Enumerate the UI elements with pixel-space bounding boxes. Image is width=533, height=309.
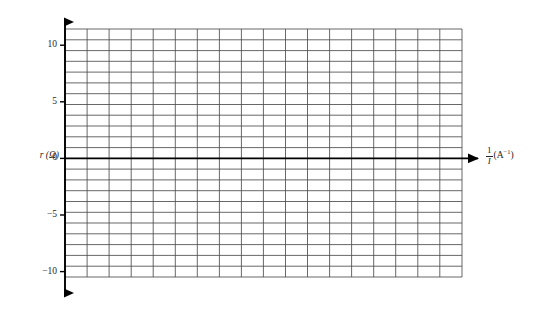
graph-figure: 10 5 0 −5 −10 r (Ω) 1 I (A−1)	[0, 0, 533, 309]
figure-background	[0, 0, 533, 309]
graph-canvas	[0, 0, 533, 309]
